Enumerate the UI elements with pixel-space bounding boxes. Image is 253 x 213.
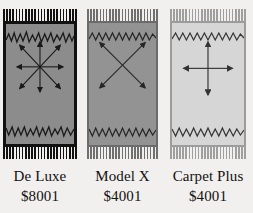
carpet-body bbox=[3, 21, 77, 147]
fringe-thread bbox=[226, 146, 228, 159]
fringe-thread bbox=[195, 146, 197, 159]
fringe-thread bbox=[19, 146, 21, 159]
fringe-thread bbox=[179, 146, 181, 159]
fringe-thread bbox=[153, 146, 155, 159]
zigzag-bottom bbox=[172, 125, 244, 139]
product-price: $4001 bbox=[87, 188, 158, 205]
fringe-thread bbox=[232, 146, 234, 159]
fringe-thread bbox=[3, 146, 5, 159]
fringe-thread bbox=[56, 146, 58, 159]
pattern-arrows bbox=[172, 23, 244, 114]
fringe-thread bbox=[44, 146, 46, 159]
fringe-thread bbox=[207, 146, 209, 159]
fringe-thread bbox=[66, 146, 68, 159]
fringe-thread bbox=[109, 146, 111, 159]
fringe-thread bbox=[128, 146, 130, 159]
fringe-thread bbox=[204, 146, 206, 159]
fringe-thread bbox=[90, 146, 92, 159]
fringe-thread bbox=[150, 146, 152, 159]
fringe-thread bbox=[118, 146, 120, 159]
fringe-thread bbox=[192, 146, 194, 159]
product-name: De Luxe bbox=[3, 168, 77, 185]
fringe-bottom bbox=[3, 146, 77, 159]
fringe-thread bbox=[69, 146, 71, 159]
fringe-bottom bbox=[170, 146, 246, 159]
product-name: Model X bbox=[87, 168, 158, 185]
zigzag-bottom bbox=[6, 124, 74, 138]
pattern-arrows bbox=[89, 23, 156, 107]
fringe-thread bbox=[238, 146, 240, 159]
fringe-thread bbox=[47, 146, 49, 159]
fringe-thread bbox=[241, 146, 243, 159]
fringe-thread bbox=[173, 146, 175, 159]
fringe-thread bbox=[244, 146, 246, 159]
fringe-thread bbox=[189, 146, 191, 159]
fringe-thread bbox=[201, 146, 203, 159]
fringe-thread bbox=[34, 146, 36, 159]
fringe-thread bbox=[185, 146, 187, 159]
fringe-thread bbox=[137, 146, 139, 159]
fringe-thread bbox=[106, 146, 108, 159]
fringe-thread bbox=[140, 146, 142, 159]
fringe-thread bbox=[223, 146, 225, 159]
fringe-thread bbox=[125, 146, 127, 159]
fringe-thread bbox=[50, 146, 52, 159]
fringe-thread bbox=[115, 146, 117, 159]
fringe-thread bbox=[235, 146, 237, 159]
fringe-thread bbox=[63, 146, 65, 159]
fringe-thread bbox=[9, 146, 11, 159]
carpet-body bbox=[170, 21, 246, 147]
fringe-thread bbox=[176, 146, 178, 159]
fringe-thread bbox=[131, 146, 133, 159]
fringe-thread bbox=[213, 146, 215, 159]
fringe-thread bbox=[72, 146, 74, 159]
fringe-thread bbox=[96, 146, 98, 159]
carpet-body bbox=[87, 21, 158, 147]
fringe-thread bbox=[144, 146, 146, 159]
fringe-thread bbox=[93, 146, 95, 159]
fringe-thread bbox=[22, 146, 24, 159]
fringe-bottom bbox=[87, 146, 158, 159]
product-card-carpet-plus[interactable]: Carpet Plus $4001 bbox=[170, 0, 246, 213]
fringe-thread bbox=[134, 146, 136, 159]
fringe-thread bbox=[60, 146, 62, 159]
product-price: $4001 bbox=[170, 188, 246, 205]
fringe-thread bbox=[170, 146, 172, 159]
fringe-thread bbox=[16, 146, 18, 159]
fringe-thread bbox=[229, 146, 231, 159]
product-card-model-x[interactable]: Model X $4001 bbox=[87, 0, 158, 213]
fringe-thread bbox=[147, 146, 149, 159]
carpet-catalog: De Luxe $8001 bbox=[0, 0, 253, 213]
fringe-thread bbox=[198, 146, 200, 159]
fringe-thread bbox=[28, 146, 30, 159]
fringe-thread bbox=[100, 146, 102, 159]
pattern-arrows bbox=[6, 24, 74, 110]
fringe-thread bbox=[87, 146, 89, 159]
fringe-thread bbox=[182, 146, 184, 159]
product-price: $8001 bbox=[3, 188, 77, 205]
fringe-thread bbox=[31, 146, 33, 159]
product-card-de-luxe[interactable]: De Luxe $8001 bbox=[3, 0, 77, 213]
product-name: Carpet Plus bbox=[170, 168, 246, 185]
fringe-thread bbox=[53, 146, 55, 159]
fringe-thread bbox=[216, 146, 218, 159]
fringe-thread bbox=[6, 146, 8, 159]
fringe-thread bbox=[122, 146, 124, 159]
fringe-thread bbox=[103, 146, 105, 159]
fringe-thread bbox=[38, 146, 40, 159]
fringe-thread bbox=[220, 146, 222, 159]
fringe-thread bbox=[12, 146, 14, 159]
fringe-thread bbox=[41, 146, 43, 159]
fringe-thread bbox=[75, 146, 77, 159]
fringe-thread bbox=[112, 146, 114, 159]
fringe-thread bbox=[25, 146, 27, 159]
fringe-thread bbox=[156, 146, 158, 159]
zigzag-bottom bbox=[89, 125, 156, 139]
fringe-thread bbox=[210, 146, 212, 159]
